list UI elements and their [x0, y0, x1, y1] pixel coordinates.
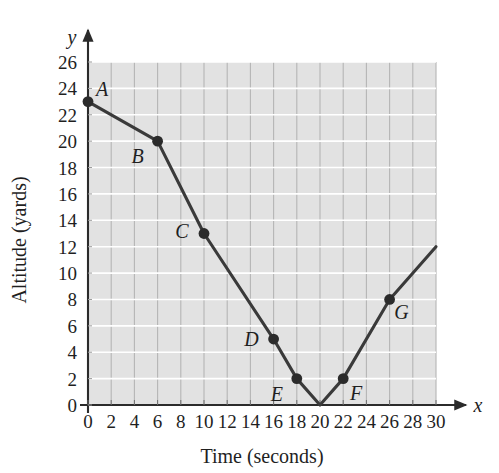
data-point-marker-d — [268, 334, 279, 345]
data-point-label-g: G — [394, 301, 409, 323]
x-tick-label: 20 — [311, 411, 330, 432]
data-point-label-c: C — [175, 220, 189, 242]
x-tick-label: 10 — [195, 411, 214, 432]
x-tick-label: 26 — [380, 411, 399, 432]
x-tick-label: 30 — [427, 411, 446, 432]
y-tick-label: 10 — [58, 263, 77, 284]
y-tick-label: 16 — [58, 184, 77, 205]
x-axis-variable-label: x — [473, 394, 483, 416]
x-tick-label: 8 — [176, 411, 186, 432]
altitude-vs-time-chart: 024681012141618202224262830 024681012141… — [0, 0, 499, 473]
y-tick-label: 18 — [58, 158, 77, 179]
x-tick-label: 18 — [287, 411, 306, 432]
y-tick-label: 6 — [68, 316, 78, 337]
data-point-marker-c — [199, 228, 210, 239]
y-axis-title: Altitude (yards) — [8, 176, 31, 303]
y-tick-label: 12 — [58, 237, 77, 258]
data-point-label-a: A — [94, 78, 109, 100]
x-tick-label: 28 — [403, 411, 422, 432]
x-tick-label: 6 — [153, 411, 163, 432]
data-point-marker-e — [291, 373, 302, 384]
x-tick-label: 22 — [334, 411, 353, 432]
y-tick-label: 20 — [58, 131, 77, 152]
y-axis-tick-labels: 02468101214161820222426 — [58, 52, 78, 416]
x-axis-title: Time (seconds) — [200, 445, 323, 468]
data-point-label-e: E — [270, 383, 283, 405]
y-tick-label: 24 — [58, 78, 78, 99]
y-tick-label: 0 — [68, 395, 78, 416]
x-tick-label: 0 — [83, 411, 93, 432]
y-tick-label: 2 — [68, 369, 78, 390]
x-axis-tick-labels: 024681012141618202224262830 — [83, 411, 445, 432]
y-tick-label: 8 — [68, 289, 78, 310]
x-tick-label: 16 — [264, 411, 283, 432]
y-tick-label: 4 — [68, 342, 78, 363]
data-point-label-b: B — [131, 145, 143, 167]
y-tick-label: 14 — [58, 210, 78, 231]
plot-background-rect — [88, 62, 436, 405]
x-tick-label: 12 — [218, 411, 237, 432]
y-tick-label: 22 — [58, 105, 77, 126]
data-point-label-f: F — [349, 382, 363, 404]
data-point-marker-f — [338, 373, 349, 384]
plot-area-background — [88, 62, 436, 405]
y-tick-label: 26 — [58, 52, 77, 73]
data-point-label-d: D — [243, 328, 259, 350]
data-point-marker-b — [152, 136, 163, 147]
x-tick-label: 24 — [357, 411, 377, 432]
y-axis-variable-label: y — [66, 26, 77, 49]
chart-canvas: 024681012141618202224262830 024681012141… — [0, 0, 499, 473]
data-point-marker-a — [83, 96, 94, 107]
x-tick-label: 4 — [130, 411, 140, 432]
x-tick-label: 14 — [241, 411, 261, 432]
x-tick-label: 2 — [106, 411, 116, 432]
